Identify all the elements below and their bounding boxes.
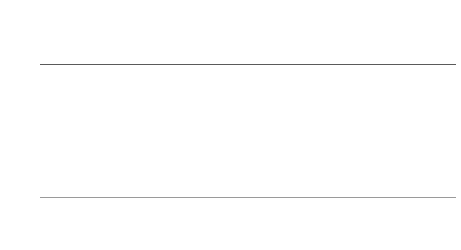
top-panel-plot-area xyxy=(40,10,456,65)
x-axis-category-labels xyxy=(40,199,456,221)
top-panel xyxy=(40,10,456,65)
top-panel-y-ticks xyxy=(24,10,39,65)
bottom-panel xyxy=(40,70,456,198)
chart-legend xyxy=(34,220,454,244)
bottom-panel-y-ticks xyxy=(24,70,39,198)
bottom-panel-plot-area xyxy=(40,70,456,198)
pollen-chart-figure xyxy=(0,0,461,250)
